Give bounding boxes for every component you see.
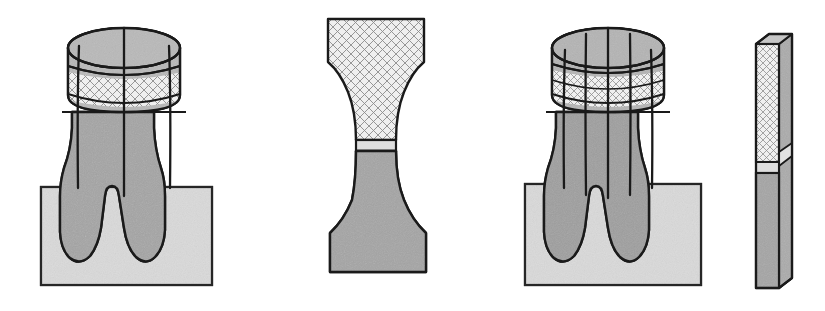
- panel-tooth-with-fine-grid-crown: [525, 28, 701, 285]
- interface-band: [356, 140, 396, 151]
- figure-root: Dental restoration specimen diagram Four…: [0, 0, 825, 311]
- specimen-diagram-svg: [0, 0, 825, 311]
- lower-solid-half: [325, 148, 433, 278]
- panel-tooth-with-coarse-grid-crown: [41, 28, 212, 285]
- upper-hatched-half: [328, 19, 424, 140]
- bar-front-hatched-upper: [756, 44, 779, 162]
- panel-rectangular-bar-specimen: [756, 34, 792, 288]
- panel-hourglass-tensile-specimen: [325, 19, 433, 278]
- bar-front-solid-lower: [756, 173, 779, 288]
